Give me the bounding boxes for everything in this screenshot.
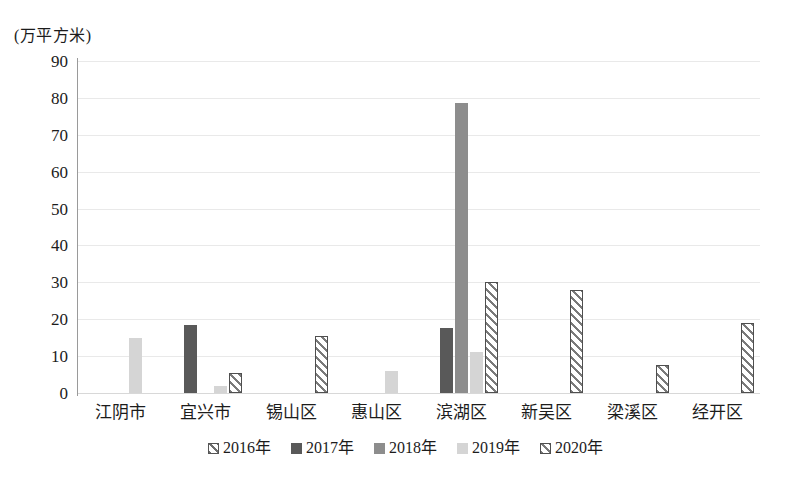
bar-group (334, 61, 419, 393)
x-axis-category-label: 惠山区 (351, 398, 402, 423)
plot-area (78, 61, 760, 393)
y-axis-tick-label: 20 (8, 311, 68, 328)
gridline (78, 393, 760, 394)
legend-item[interactable]: 2020年 (540, 440, 603, 456)
y-axis-tick-label: 50 (8, 200, 68, 217)
bar (485, 282, 498, 393)
y-axis-tick-label: 10 (8, 348, 68, 365)
legend-label: 2016年 (223, 440, 271, 456)
bar (315, 336, 328, 393)
x-axis-category-labels: 江阴市宜兴市锡山区惠山区滨湖区新吴区梁溪区经开区 (78, 398, 760, 428)
legend-label: 2020年 (555, 440, 603, 456)
y-axis-tick-label: 0 (8, 385, 68, 402)
x-axis-category-label: 锡山区 (266, 398, 317, 423)
bar-group (419, 61, 504, 393)
y-axis-tick-label: 60 (8, 163, 68, 180)
bar-chart: (万平方米) 9080706050403020100 江阴市宜兴市锡山区惠山区滨… (0, 0, 811, 490)
legend-item[interactable]: 2016年 (208, 440, 271, 456)
x-axis-category-label: 江阴市 (95, 398, 146, 423)
bar (229, 373, 242, 393)
bar-group (78, 61, 163, 393)
bar (741, 323, 754, 393)
legend-swatch-icon (457, 443, 468, 454)
chart-legend: 2016年2017年2018年2019年2020年 (0, 440, 811, 456)
legend-label: 2018年 (389, 440, 437, 456)
y-axis-tick-label: 40 (8, 237, 68, 254)
bar-group (504, 61, 589, 393)
legend-item[interactable]: 2017年 (291, 440, 354, 456)
bar (570, 290, 583, 393)
x-axis-category-label: 宜兴市 (180, 398, 231, 423)
legend-item[interactable]: 2019年 (457, 440, 520, 456)
bar (385, 371, 398, 393)
bar (184, 325, 197, 393)
x-axis-category-label: 梁溪区 (607, 398, 658, 423)
y-axis-tick-label: 70 (8, 126, 68, 143)
legend-label: 2019年 (472, 440, 520, 456)
x-axis-category-label: 滨湖区 (436, 398, 487, 423)
x-axis-category-label: 新吴区 (521, 398, 572, 423)
y-axis-tick-label: 80 (8, 89, 68, 106)
bar (455, 103, 468, 393)
bars-layer (78, 61, 760, 393)
bar (440, 328, 453, 393)
x-axis-category-label: 经开区 (692, 398, 743, 423)
legend-swatch-icon (291, 443, 302, 454)
y-axis-tick-labels: 9080706050403020100 (0, 0, 78, 490)
y-axis-tick-label: 90 (8, 53, 68, 70)
legend-label: 2017年 (306, 440, 354, 456)
bar (656, 365, 669, 393)
bar-group (249, 61, 334, 393)
bar (129, 338, 142, 393)
bar-group (590, 61, 675, 393)
legend-swatch-icon (208, 443, 219, 454)
bar (470, 352, 483, 393)
legend-item[interactable]: 2018年 (374, 440, 437, 456)
legend-swatch-icon (540, 443, 551, 454)
legend-swatch-icon (374, 443, 385, 454)
bar-group (675, 61, 760, 393)
bar-group (163, 61, 248, 393)
y-axis-tick-label: 30 (8, 274, 68, 291)
bar (214, 386, 227, 393)
